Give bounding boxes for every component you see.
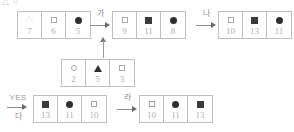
cell: 6 — [42, 12, 66, 38]
arrow-label: 가 — [97, 9, 104, 18]
arrow-head-icon — [211, 22, 216, 28]
cell: 10 — [82, 96, 106, 122]
arrow-na: 나 — [195, 11, 217, 37]
cell: 11 — [267, 12, 291, 38]
arrow-shaft — [90, 25, 106, 26]
cell-value: 13 — [196, 110, 205, 120]
group-middle: 2 5 3 — [61, 59, 135, 87]
cell-value: 11 — [144, 26, 153, 36]
cell-value: 13 — [41, 110, 50, 120]
cell: 11 — [58, 96, 82, 122]
arrow-head-icon — [22, 104, 27, 110]
group-top-middle: 9 11 8 — [112, 11, 186, 39]
cell-value: 8 — [171, 26, 176, 36]
circle-filled-icon — [170, 16, 177, 25]
cell-value: 13 — [250, 26, 259, 36]
group-bottom-right: 10 11 13 — [139, 95, 213, 123]
circle-filled-icon — [276, 16, 283, 25]
cell: 11 — [137, 12, 161, 38]
circle-filled-icon — [75, 16, 82, 25]
square-outline-icon — [119, 64, 125, 73]
arrow-ra: 라 — [116, 95, 138, 121]
cell-value: 10 — [90, 110, 99, 120]
group-top-right: 10 13 11 — [218, 11, 292, 39]
cell-value: 5 — [76, 26, 81, 36]
cell: 9 — [113, 12, 137, 38]
square-outline-icon — [228, 16, 234, 25]
cell-value: 11 — [275, 26, 284, 36]
circle-filled-icon — [172, 100, 179, 109]
cell: 7 — [18, 12, 42, 38]
arrow-label: 다 — [15, 112, 22, 121]
arrow-up — [99, 37, 109, 59]
square-outline-icon — [122, 16, 128, 25]
circle-outline-icon — [71, 64, 77, 73]
cell-value: 7 — [27, 26, 32, 36]
cell-value: 2 — [71, 74, 76, 84]
cell-value: 9 — [122, 26, 127, 36]
square-filled-icon — [42, 100, 49, 109]
square-outline-icon — [91, 100, 97, 109]
cell: 3 — [110, 60, 134, 86]
cell: 8 — [161, 12, 185, 38]
square-outline-icon — [51, 16, 57, 25]
cell: 2 — [62, 60, 86, 86]
triangle-filled-icon — [94, 64, 102, 73]
square-filled-icon — [145, 16, 152, 25]
cell: 5 — [66, 12, 90, 38]
diagram-canvas: △ ○ 7 6 5 가 9 11 — [0, 0, 294, 132]
arrow-shaft — [117, 109, 133, 110]
cell-value: 11 — [171, 110, 180, 120]
cell-value: 10 — [147, 110, 156, 120]
triangle-outline-icon — [25, 16, 34, 25]
square-filled-icon — [251, 16, 258, 25]
cell-value: 11 — [65, 110, 74, 120]
arrow-shaft — [7, 107, 23, 108]
cell: 13 — [243, 12, 267, 38]
group-top-left: 7 6 5 — [17, 11, 91, 39]
group-bottom-left: 13 11 10 — [33, 95, 107, 123]
cell: 10 — [219, 12, 243, 38]
cell: 13 — [188, 96, 212, 122]
cell-value: 5 — [95, 74, 100, 84]
arrow-label: 나 — [203, 9, 210, 18]
cell: 11 — [164, 96, 188, 122]
cell-value: 6 — [51, 26, 56, 36]
stray-mark-circle-icon: ○ — [13, 0, 18, 6]
arrow-shaft — [103, 41, 104, 58]
arrow-label: 라 — [124, 93, 131, 102]
arrow-da: YES 다 — [5, 93, 31, 127]
circle-filled-icon — [66, 100, 73, 109]
cell-value: 3 — [120, 74, 125, 84]
yes-label: YES — [10, 93, 27, 102]
arrow-head-icon — [132, 106, 137, 112]
square-filled-icon — [197, 100, 204, 109]
cell: 10 — [140, 96, 164, 122]
stray-mark-triangle-icon: △ — [2, 0, 9, 6]
arrow-shaft — [196, 25, 212, 26]
arrow-ga: 가 — [89, 11, 111, 37]
arrow-head-icon — [105, 22, 110, 28]
cell: 5 — [86, 60, 110, 86]
cell-value: 10 — [226, 26, 235, 36]
cell: 13 — [34, 96, 58, 122]
square-outline-icon — [149, 100, 155, 109]
